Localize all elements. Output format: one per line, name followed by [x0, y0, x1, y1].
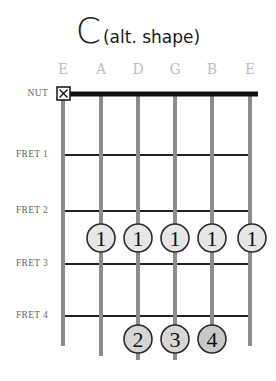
muted-string-marker: [57, 87, 70, 100]
finger-marker: 1: [87, 224, 115, 252]
svg-text:1: 1: [96, 226, 107, 251]
other-fingers: 2 3 4: [124, 325, 226, 353]
finger-marker: 1: [198, 224, 226, 252]
fretboard: 1 1 1 1 1 2 3 4: [0, 0, 276, 381]
strings: [63, 94, 250, 360]
svg-text:1: 1: [207, 226, 218, 251]
svg-text:4: 4: [207, 327, 218, 352]
svg-text:1: 1: [170, 226, 181, 251]
svg-text:1: 1: [247, 226, 258, 251]
svg-text:1: 1: [133, 226, 144, 251]
svg-text:2: 2: [133, 327, 144, 352]
barre-fingers: 1 1 1 1 1: [87, 224, 266, 252]
finger-marker: 4: [198, 325, 226, 353]
finger-marker: 1: [238, 224, 266, 252]
finger-marker: 1: [161, 224, 189, 252]
finger-marker: 3: [161, 325, 189, 353]
finger-marker: 1: [124, 224, 152, 252]
svg-text:3: 3: [170, 327, 181, 352]
finger-marker: 2: [124, 325, 152, 353]
